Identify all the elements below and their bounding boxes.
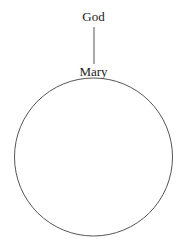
circle-shape: [15, 78, 173, 236]
diagram-canvas: God Mary: [0, 0, 186, 246]
node-god-label: God: [82, 9, 105, 24]
node-mary-label: Mary: [79, 64, 108, 79]
